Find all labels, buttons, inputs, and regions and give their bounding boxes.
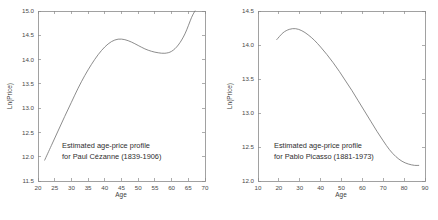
y-tick-label: 13.5 <box>242 75 255 82</box>
chart-panel-cezanne: 2025303540455055606570 11.512.012.513.01… <box>0 0 219 220</box>
picasso-plot-svg: 102030405060708090 12.012.513.013.514.01… <box>219 0 438 220</box>
x-tick-label: 80 <box>401 184 408 191</box>
picasso-annotation-line1: Estimated age-price profile <box>274 141 362 150</box>
y-tick-label: 14.5 <box>242 7 255 14</box>
y-tick-label: 12.0 <box>242 177 255 184</box>
y-tick-label: 13.5 <box>22 80 35 87</box>
picasso-y-tick-labels: 12.012.513.013.514.014.5 <box>242 7 255 184</box>
x-tick-label: 60 <box>168 184 175 191</box>
x-tick-label: 70 <box>202 184 209 191</box>
x-tick-label: 65 <box>185 184 192 191</box>
cezanne-x-tick-labels: 2025303540455055606570 <box>35 184 209 191</box>
figure-container: 2025303540455055606570 11.512.012.513.01… <box>0 0 438 220</box>
cezanne-plot-svg: 2025303540455055606570 11.512.012.513.01… <box>0 0 219 220</box>
x-tick-label: 50 <box>338 184 345 191</box>
x-tick-label: 35 <box>85 184 92 191</box>
x-tick-label: 20 <box>275 184 282 191</box>
cezanne-y-axis-title: Ln(Price) <box>6 83 14 109</box>
x-tick-label: 60 <box>359 184 366 191</box>
x-tick-label: 10 <box>255 184 262 191</box>
picasso-annotation-line2: for Pablo Picasso (1881-1973) <box>274 152 374 161</box>
cezanne-annotation-line1: Estimated age-price profile <box>62 141 150 150</box>
picasso-x-tick-labels: 102030405060708090 <box>255 184 429 191</box>
picasso-x-axis-title: Age <box>335 191 347 199</box>
chart-panel-picasso: 102030405060708090 12.012.513.013.514.01… <box>219 0 438 220</box>
x-tick-label: 30 <box>296 184 303 191</box>
y-tick-label: 12.5 <box>22 129 35 136</box>
x-tick-label: 40 <box>317 184 324 191</box>
x-tick-label: 25 <box>51 184 58 191</box>
x-tick-label: 55 <box>151 184 158 191</box>
x-tick-label: 30 <box>68 184 75 191</box>
y-tick-label: 14.0 <box>22 56 35 63</box>
x-tick-label: 50 <box>135 184 142 191</box>
x-tick-label: 90 <box>422 184 429 191</box>
y-tick-label: 11.5 <box>22 177 34 184</box>
picasso-y-axis-title: Ln(Price) <box>226 83 234 109</box>
y-tick-label: 12.5 <box>242 143 255 150</box>
y-tick-label: 13.0 <box>242 109 255 116</box>
y-tick-label: 14.0 <box>242 41 255 48</box>
y-tick-label: 13.0 <box>22 104 35 111</box>
cezanne-age-price-curve <box>45 11 195 160</box>
y-tick-label: 12.0 <box>22 153 35 160</box>
y-tick-label: 14.5 <box>22 31 35 38</box>
x-tick-label: 70 <box>380 184 387 191</box>
y-tick-label: 15.0 <box>22 7 35 14</box>
cezanne-x-axis-title: Age <box>115 191 127 199</box>
x-tick-label: 45 <box>118 184 125 191</box>
x-tick-label: 40 <box>101 184 108 191</box>
x-tick-label: 20 <box>35 184 42 191</box>
cezanne-y-tick-labels: 11.512.012.513.013.514.014.515.0 <box>22 7 35 184</box>
cezanne-annotation-line2: for Paul Cézanne (1839-1906) <box>62 152 161 161</box>
